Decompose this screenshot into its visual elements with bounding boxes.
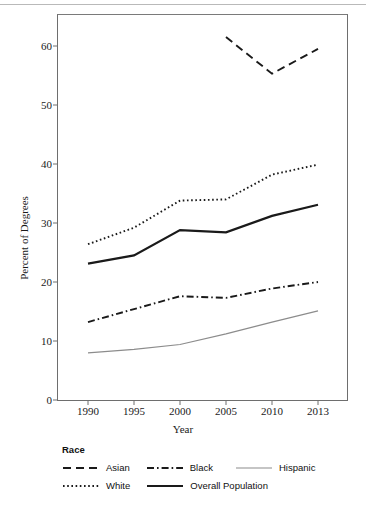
x-tick-label: 2000 [169, 405, 191, 417]
legend: Race AsianBlackHispanic WhiteOverall Pop… [62, 444, 362, 491]
y-tick-label: 60 [41, 40, 52, 52]
y-tick-label: 10 [41, 335, 52, 347]
x-axis-tick-labels: 199019952000200520102013 [0, 405, 366, 423]
legend-label: White [106, 480, 130, 491]
x-tick-label: 1990 [77, 405, 99, 417]
y-tick-label: 40 [41, 158, 52, 170]
legend-swatch-dashed [62, 462, 100, 473]
series-line-asian [226, 37, 318, 74]
series-line-overall-population [88, 205, 318, 264]
y-tick-label: 50 [41, 99, 52, 111]
y-tick-label: 20 [41, 276, 52, 288]
x-tick-label: 1995 [123, 405, 145, 417]
legend-swatch-solid-thick [146, 480, 184, 491]
series-line-black [88, 282, 318, 322]
legend-item-asian[interactable]: Asian [62, 462, 130, 473]
series-line-hispanic [88, 311, 318, 353]
legend-row: AsianBlackHispanic [62, 462, 362, 473]
legend-label: Hispanic [279, 462, 315, 473]
x-axis-title: Year [0, 423, 366, 435]
legend-item-overall-population[interactable]: Overall Population [146, 480, 268, 491]
x-tick-label: 2010 [261, 405, 283, 417]
series-lines [88, 37, 318, 353]
legend-label: Asian [106, 462, 130, 473]
legend-swatch-solid-thin [235, 462, 273, 473]
legend-label: Overall Population [190, 480, 268, 491]
axis-ticks [53, 46, 318, 405]
legend-swatch-dash-dot [146, 462, 184, 473]
legend-item-hispanic[interactable]: Hispanic [235, 462, 315, 473]
x-tick-label: 2013 [307, 405, 329, 417]
x-tick-label: 2005 [215, 405, 237, 417]
legend-label: Black [190, 462, 213, 473]
y-tick-label: 30 [41, 217, 52, 229]
y-axis-title: Percent of Degrees [18, 168, 30, 308]
legend-swatch-dotted [62, 480, 100, 491]
figure-container: 0102030405060 199019952000200520102013 P… [0, 0, 366, 508]
legend-item-white[interactable]: White [62, 480, 130, 491]
legend-item-black[interactable]: Black [146, 462, 213, 473]
legend-title: Race [62, 444, 362, 455]
legend-row: WhiteOverall Population [62, 480, 362, 491]
